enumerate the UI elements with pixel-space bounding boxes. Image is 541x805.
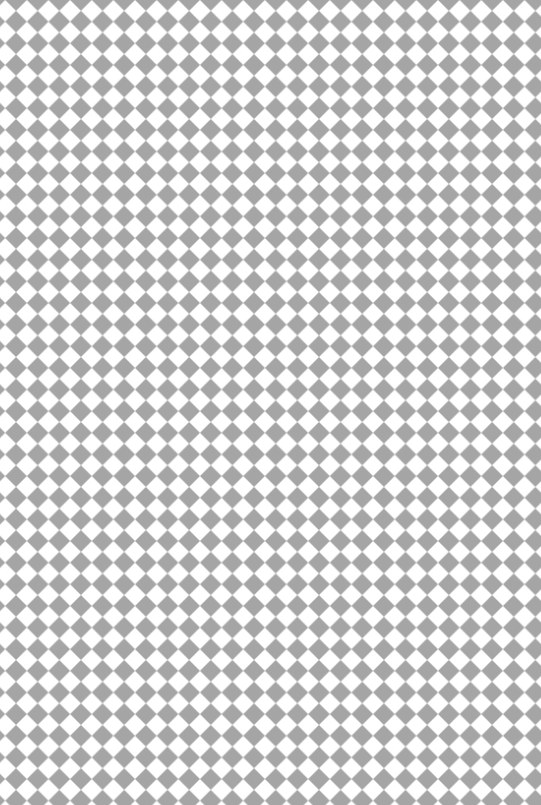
diamond-pattern-fill	[0, 0, 541, 805]
diamond-pattern-background	[0, 0, 541, 805]
